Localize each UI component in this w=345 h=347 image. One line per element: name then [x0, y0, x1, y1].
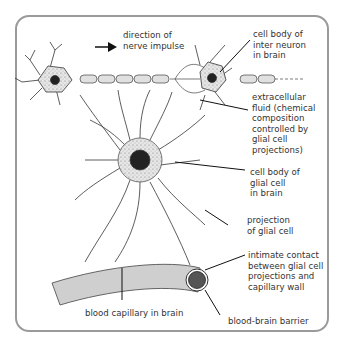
- glial-cell: [75, 90, 205, 265]
- axon-myelin: [80, 64, 305, 93]
- label-intimate-contact: intimate contact between glial cell proj…: [248, 250, 323, 292]
- blood-capillary: [52, 264, 208, 305]
- label-blood-brain-barrier: blood-brain barrier: [228, 316, 309, 327]
- label-extracellular-fluid: extracellular fluid (chemical compositio…: [252, 92, 315, 156]
- label-glial-body: cell body of glial cell in brain: [250, 167, 300, 199]
- label-capillary: blood capillary in brain: [85, 308, 183, 319]
- label-projection: projection of glial cell: [247, 215, 293, 236]
- label-interneuron: cell body of inter neuron in brain: [253, 29, 306, 61]
- left-neuron: [15, 42, 72, 105]
- direction-arrow: [95, 42, 117, 52]
- label-direction: direction of nerve impulse: [123, 30, 184, 51]
